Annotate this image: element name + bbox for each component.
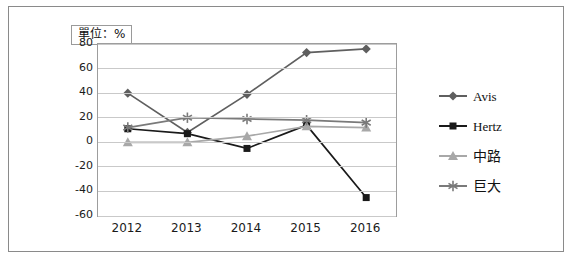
gridline xyxy=(98,142,396,143)
y-axis-tick-labels: -60-40-20020406080 xyxy=(55,43,93,217)
legend-marker-icon xyxy=(439,119,467,133)
legend-marker-icon xyxy=(439,89,467,103)
x-tick-label: 2012 xyxy=(97,221,157,235)
y-tick-label: -20 xyxy=(61,160,93,171)
gridline xyxy=(98,166,396,167)
series-point xyxy=(362,44,371,53)
gridline xyxy=(98,93,396,94)
gridline xyxy=(98,117,396,118)
gridline xyxy=(98,68,396,69)
legend-marker-icon xyxy=(439,179,467,193)
gridline xyxy=(98,191,396,192)
y-tick-label: 80 xyxy=(61,37,93,48)
y-tick-label: 40 xyxy=(61,86,93,97)
legend-item[interactable]: Avis xyxy=(439,81,549,111)
legend-marker-icon xyxy=(439,149,467,163)
legend-label: 巨大 xyxy=(467,179,501,194)
plot-area xyxy=(97,43,397,217)
legend-item[interactable]: 中路 xyxy=(439,141,549,171)
x-axis-tick-labels: 20122013201420152016 xyxy=(97,221,397,241)
legend-label: Avis xyxy=(467,89,497,104)
y-tick-label: 0 xyxy=(61,135,93,146)
y-tick-label: -60 xyxy=(61,209,93,220)
series-point xyxy=(363,194,370,201)
x-tick-label: 2013 xyxy=(156,221,216,235)
gridline xyxy=(98,216,396,217)
gridline xyxy=(98,44,396,45)
x-tick-label: 2015 xyxy=(276,221,336,235)
x-tick-label: 2016 xyxy=(335,221,395,235)
legend-label: Hertz xyxy=(467,119,502,134)
y-tick-label: -40 xyxy=(61,184,93,195)
legend-item[interactable]: Hertz xyxy=(439,111,549,141)
series-point xyxy=(244,145,251,152)
y-tick-label: 20 xyxy=(61,111,93,122)
series-point xyxy=(184,130,191,137)
chart-legend: AvisHertz中路巨大 xyxy=(439,81,549,201)
chart-frame: 單位：% -60-40-20020406080 2012201320142015… xyxy=(8,6,564,252)
x-tick-label: 2014 xyxy=(216,221,276,235)
legend-label: 中路 xyxy=(467,149,501,164)
legend-item[interactable]: 巨大 xyxy=(439,171,549,201)
y-tick-label: 60 xyxy=(61,62,93,73)
